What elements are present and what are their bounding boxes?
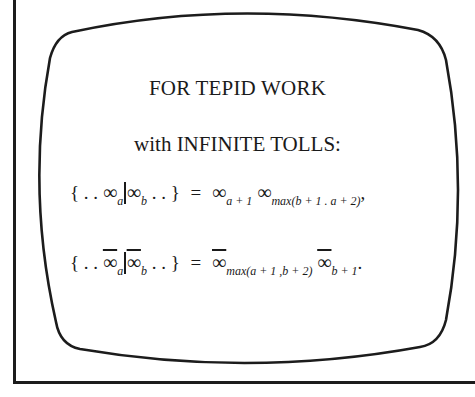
equation-1: { . . ∞a∞b . . } = ∞a + 1 ∞max(b + 1 . a… bbox=[70, 181, 365, 204]
infinity-symbol: ∞ bbox=[127, 181, 141, 204]
eq2-right-subscript: b bbox=[141, 264, 147, 278]
eq2-lhs-close: . . } bbox=[152, 252, 180, 273]
eq1-rhs-subscript-1: a + 1 bbox=[226, 194, 252, 208]
eq1-right-subscript: b bbox=[141, 194, 147, 208]
eq1-rhs-subscript-2: max(b + 1 . a + 2) bbox=[271, 194, 360, 208]
overlined-infinity-symbol: ∞ bbox=[127, 251, 141, 274]
eq1-lhs-open: { . . bbox=[70, 182, 98, 203]
eq2-terminator: . bbox=[358, 252, 363, 273]
eq2-separator bbox=[124, 252, 126, 274]
eq1-equals: = bbox=[191, 182, 202, 203]
heading-line-2: with INFINITE TOLLS: bbox=[0, 132, 475, 157]
overlined-infinity-symbol: ∞ bbox=[103, 251, 117, 274]
eq2-rhs-subscript-2: b + 1 bbox=[331, 264, 357, 278]
eq2-rhs-subscript-1: max(a + 1 ,b + 2) bbox=[226, 264, 312, 278]
eq1-lhs-close: . . } bbox=[152, 182, 180, 203]
equation-2: { . . ∞a∞b . . } = ∞max(a + 1 ,b + 2) ∞b… bbox=[70, 251, 362, 274]
heading-line-1: FOR TEPID WORK bbox=[0, 76, 475, 101]
eq1-left-subscript: a bbox=[117, 194, 123, 208]
eq2-lhs-open: { . . bbox=[70, 252, 98, 273]
infinity-symbol: ∞ bbox=[103, 181, 117, 204]
eq1-separator bbox=[124, 182, 126, 204]
overlined-infinity-symbol: ∞ bbox=[212, 251, 226, 274]
infinity-symbol: ∞ bbox=[257, 181, 271, 204]
overlined-infinity-symbol: ∞ bbox=[317, 251, 331, 274]
eq2-equals: = bbox=[191, 252, 202, 273]
infinity-symbol: ∞ bbox=[212, 181, 226, 204]
eq1-terminator: , bbox=[361, 182, 366, 203]
eq2-left-subscript: a bbox=[117, 264, 123, 278]
